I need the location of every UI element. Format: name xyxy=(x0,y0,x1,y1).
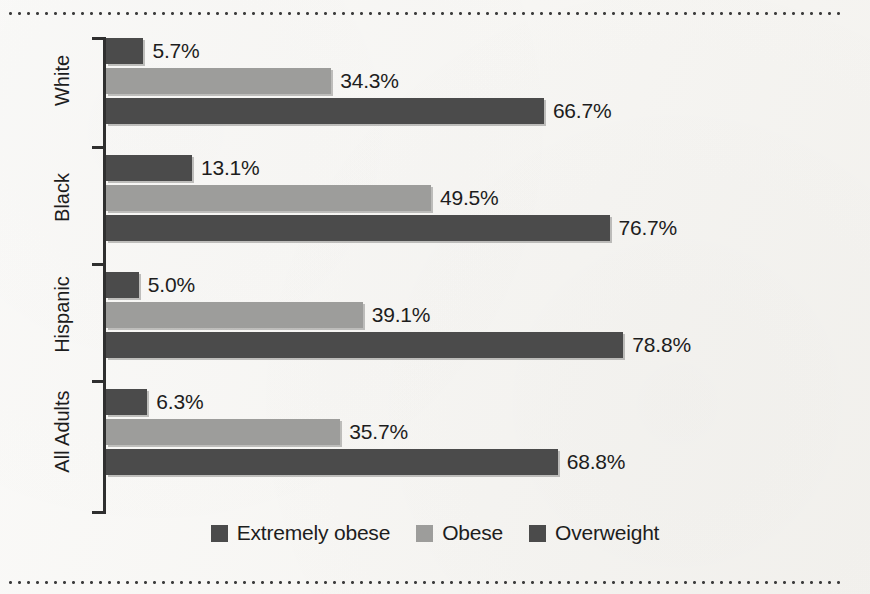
legend-label: Extremely obese xyxy=(237,521,390,545)
category-label-black: Black xyxy=(19,186,105,210)
bar[interactable] xyxy=(106,38,143,64)
legend-item-extremely-obese[interactable]: Extremely obese xyxy=(211,521,390,545)
bar-group: 6.3%35.7%68.8% xyxy=(106,389,846,475)
bar[interactable] xyxy=(106,302,363,328)
bar-value-label: 6.3% xyxy=(156,390,203,414)
category-axis-cap-bottom xyxy=(92,511,106,514)
bar[interactable] xyxy=(106,419,340,445)
category-label-all-adults: All Adults xyxy=(19,420,105,444)
bar-group: 5.7%34.3%66.7% xyxy=(106,38,846,124)
category-axis-tick xyxy=(92,146,104,149)
category-label-white: White xyxy=(19,69,105,93)
chart-page: 5.7%34.3%66.7%13.1%49.5%76.7%5.0%39.1%78… xyxy=(0,0,870,594)
bar-value-label: 39.1% xyxy=(372,303,431,327)
bar-value-label: 34.3% xyxy=(340,69,399,93)
bar[interactable] xyxy=(106,155,192,181)
bar[interactable] xyxy=(106,185,431,211)
category-label-text: White xyxy=(51,38,74,124)
category-label-text: All Adults xyxy=(51,389,74,475)
category-label-text: Hispanic xyxy=(51,272,74,358)
category-axis-cap-top xyxy=(92,37,106,40)
chart-legend: Extremely obeseObeseOverweight xyxy=(0,521,870,545)
bottom-dotted-rule xyxy=(6,581,846,584)
bar[interactable] xyxy=(106,98,544,124)
bar[interactable] xyxy=(106,389,147,415)
bar-group: 13.1%49.5%76.7% xyxy=(106,155,846,241)
bar-value-label: 13.1% xyxy=(201,156,260,180)
bar-value-label: 66.7% xyxy=(553,99,612,123)
legend-swatch-icon xyxy=(529,525,546,542)
legend-item-overweight[interactable]: Overweight xyxy=(529,521,659,545)
legend-label: Obese xyxy=(442,521,503,545)
bar[interactable] xyxy=(106,272,139,298)
bar-value-label: 78.8% xyxy=(632,333,691,357)
bar[interactable] xyxy=(106,68,331,94)
category-axis-tick xyxy=(92,380,104,383)
bar-value-label: 49.5% xyxy=(440,186,499,210)
legend-label: Overweight xyxy=(555,521,659,545)
legend-swatch-icon xyxy=(211,525,228,542)
bar-group: 5.0%39.1%78.8% xyxy=(106,272,846,358)
category-label-hispanic: Hispanic xyxy=(19,303,105,327)
category-axis-tick xyxy=(92,263,104,266)
legend-item-obese[interactable]: Obese xyxy=(416,521,503,545)
bar-value-label: 5.0% xyxy=(148,273,195,297)
legend-swatch-icon xyxy=(416,525,433,542)
bar[interactable] xyxy=(106,332,623,358)
top-dotted-rule xyxy=(6,12,846,15)
bar-value-label: 5.7% xyxy=(152,39,199,63)
bar[interactable] xyxy=(106,449,558,475)
category-label-text: Black xyxy=(51,155,74,241)
bar-value-label: 76.7% xyxy=(619,216,678,240)
bar[interactable] xyxy=(106,215,610,241)
bar-chart-plot: 5.7%34.3%66.7%13.1%49.5%76.7%5.0%39.1%78… xyxy=(0,0,870,594)
bar-value-label: 68.8% xyxy=(567,450,626,474)
bar-value-label: 35.7% xyxy=(349,420,408,444)
